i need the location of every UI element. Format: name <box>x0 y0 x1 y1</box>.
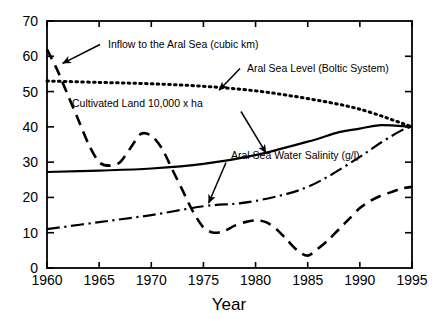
x-tick-label: 1990 <box>344 272 375 288</box>
x-tick-label: 1975 <box>188 272 219 288</box>
chart-svg: 19601965197019751980198519901995 0102030… <box>0 0 433 319</box>
x-tick-label: 1995 <box>396 272 427 288</box>
x-tick-label: 1965 <box>84 272 115 288</box>
annotation-label: Aral Sea Water Salinity (g/l) <box>231 149 360 161</box>
y-tick-label: 30 <box>22 154 38 170</box>
y-tick-label: 40 <box>22 119 38 135</box>
x-axis-title: Year <box>212 295 247 314</box>
annotation-label: Cultivated Land 10,000 x ha <box>72 97 203 109</box>
annotation-leader <box>63 45 100 64</box>
y-tick-label: 0 <box>30 260 38 276</box>
x-tick-label: 1970 <box>136 272 167 288</box>
y-tick-label: 70 <box>22 13 38 29</box>
y-tick-label: 50 <box>22 84 38 100</box>
annotation-leader <box>241 112 266 153</box>
plot-border <box>47 21 412 268</box>
annotation-leader <box>219 69 240 91</box>
annotation-label: Inflow to the Aral Sea (cubic km) <box>108 38 259 50</box>
y-tick-label: 60 <box>22 48 38 64</box>
annotation-leader <box>209 163 226 204</box>
annotation-group: Inflow to the Aral Sea (cubic km)Aral Se… <box>63 38 389 203</box>
plot-frame <box>47 21 412 268</box>
chart-figure: 19601965197019751980198519901995 0102030… <box>0 0 433 319</box>
annotation-label: Aral Sea Level (Boltic System) <box>247 62 389 74</box>
series-line <box>47 127 412 229</box>
y-tick-label: 10 <box>22 225 38 241</box>
x-tick-label: 1985 <box>292 272 323 288</box>
y-axis-ticks: 010203040506070 <box>22 13 412 276</box>
x-tick-label: 1980 <box>240 272 271 288</box>
y-tick-label: 20 <box>22 189 38 205</box>
